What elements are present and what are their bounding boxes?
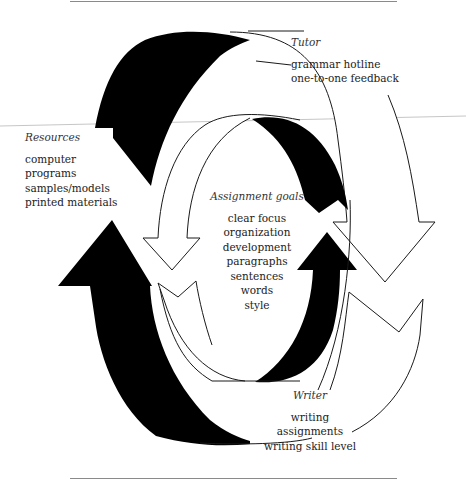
writer-item: writing	[255, 410, 365, 425]
writer-title: Writer	[255, 388, 365, 403]
assignment-goals-label: Assignment goals clear focus organizatio…	[207, 189, 307, 312]
resources-item: samples/models	[25, 181, 117, 196]
resources-item: printed materials	[25, 195, 117, 210]
outer-black-arrow-top	[95, 32, 250, 186]
writing-support-cycle-diagram: Tutor grammar hotline one-to-one feedbac…	[0, 0, 466, 489]
tutor-item: grammar hotline	[291, 57, 399, 72]
assignment-goals-item: clear focus	[207, 211, 307, 226]
tutor-label: Tutor grammar hotline one-to-one feedbac…	[291, 35, 399, 86]
resources-item: programs	[25, 166, 117, 181]
assignment-goals-item: words	[207, 283, 307, 298]
resources-label: Resources computer programs samples/mode…	[25, 130, 117, 210]
resources-title: Resources	[25, 130, 117, 145]
assignment-goals-item: paragraphs	[207, 254, 307, 269]
writer-label: Writer writing assignments writing skill…	[255, 388, 365, 453]
assignment-goals-item: organization	[207, 225, 307, 240]
writer-item: assignments	[255, 424, 365, 439]
tutor-item: one-to-one feedback	[291, 71, 399, 86]
writer-item: writing skill level	[255, 439, 365, 454]
tutor-connector-line-2	[256, 61, 291, 65]
assignment-goals-title: Assignment goals	[207, 189, 307, 204]
resources-item: computer	[25, 152, 117, 167]
assignment-goals-item: sentences	[207, 269, 307, 284]
assignment-goals-item: development	[207, 240, 307, 255]
tutor-title: Tutor	[291, 35, 399, 50]
assignment-goals-item: style	[207, 298, 307, 313]
